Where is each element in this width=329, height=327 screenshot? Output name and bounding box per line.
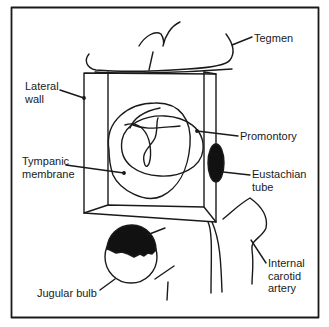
label-internal-carotid-artery: Internal carotid artery <box>268 257 305 295</box>
label-tegmen: Tegmen <box>254 32 293 45</box>
label-eustachian-tube: Eustachian tube <box>252 168 306 193</box>
label-lateral-wall: Lateral wall <box>25 80 59 105</box>
internal-carotid-artery-shape <box>208 198 266 293</box>
tympanic-membrane-shape <box>108 103 203 198</box>
label-tympanic-membrane: Tympanic membrane <box>22 155 75 180</box>
jugular-bulb-shape <box>105 225 174 300</box>
leader-lines <box>60 37 266 290</box>
label-jugular-bulb: Jugular bulb <box>37 287 97 300</box>
tegmen-shape <box>86 22 233 73</box>
eustachian-tube-opening <box>208 144 224 182</box>
label-promontory: Promontory <box>240 130 297 143</box>
